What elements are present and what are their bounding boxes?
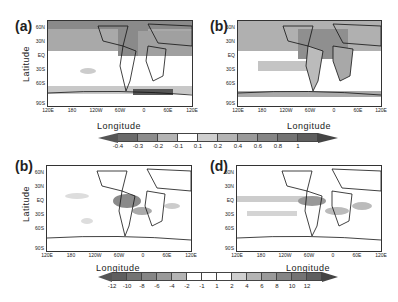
x-axis-label-a: Longitude (97, 121, 141, 131)
colorbar-bottom-max-arrow (322, 272, 338, 282)
x-tick-d: 120E (227, 252, 247, 258)
colorbar-tick-label: -0.2 (148, 143, 168, 149)
colorbar-segment (138, 133, 158, 142)
y-tick-a: 30N (31, 38, 45, 44)
x-tick-a: 60E (158, 107, 178, 113)
map-plot-a (48, 21, 192, 106)
map-plot-b (238, 21, 381, 106)
x-tick-d: 60W (299, 252, 319, 258)
y-tick-b2: 30S (30, 211, 44, 217)
x-tick-b2: 60W (109, 252, 129, 258)
colorbar-segment (187, 272, 202, 281)
y-tick-b: 60S (221, 80, 235, 86)
colorbar-tick-label: 0.6 (248, 143, 268, 149)
y-tick-d: EQ (220, 197, 234, 203)
y-tick-b2: EQ (30, 197, 44, 203)
y-tick-a: 60S (31, 80, 45, 86)
x-tick-d: 60E (347, 252, 367, 258)
colorbar-segment (202, 272, 217, 281)
colorbar-tick-label: 12 (297, 283, 317, 289)
colorbar-top-min-arrow (98, 133, 118, 143)
y-tick-d: 30N (220, 183, 234, 189)
map-plot-d (237, 166, 381, 251)
y-tick-a: 90S (31, 100, 45, 106)
x-tick-a: 120E (38, 107, 58, 113)
x-tick-a: 0 (134, 107, 154, 113)
x-tick-d: 0 (323, 252, 343, 258)
map-plot-b2 (47, 166, 191, 251)
colorbar-tick-label: 0.4 (228, 143, 248, 149)
colorbar-bottom-min-arrow (98, 272, 112, 282)
y-tick-b: 30N (221, 38, 235, 44)
colorbar-top (118, 133, 318, 142)
y-tick-a: 30S (31, 66, 45, 72)
colorbar-segment (238, 133, 258, 142)
y-tick-b: 90S (221, 100, 235, 106)
colorbar-tick-label: 0.8 (268, 143, 288, 149)
y-tick-d: 90S (220, 245, 234, 251)
colorbar-segment (198, 133, 218, 142)
x-tick-b: 120E (371, 107, 391, 113)
x-axis-label-b: Longitude (287, 121, 331, 131)
y-tick-b: 60N (221, 24, 235, 30)
x-tick-b: 60W (300, 107, 320, 113)
colorbar-segment (292, 272, 307, 281)
x-tick-a: 180 (62, 107, 82, 113)
map-panel-a (47, 20, 193, 107)
colorbar-segment (157, 272, 172, 281)
y-tick-b2: 60S (30, 225, 44, 231)
colorbar-segment (158, 133, 178, 142)
x-tick-a: 120W (86, 107, 106, 113)
y-tick-a: 60N (31, 24, 45, 30)
colorbar-tick-label: 1 (288, 143, 308, 149)
x-tick-b2: 180 (61, 252, 81, 258)
x-tick-d: 180 (251, 252, 271, 258)
x-tick-a: 60W (110, 107, 130, 113)
x-tick-b2: 120E (37, 252, 57, 258)
colorbar-segment (247, 272, 262, 281)
colorbar-tick-label: 0.1 (188, 143, 208, 149)
x-tick-b: 120W (276, 107, 296, 113)
colorbar-tick-label: 0.2 (208, 143, 228, 149)
y-tick-b: 30S (221, 66, 235, 72)
map-panel-b (237, 20, 382, 107)
y-tick-a: EQ (31, 52, 45, 58)
colorbar-segment (127, 272, 142, 281)
x-tick-a: 120E (182, 107, 202, 113)
colorbar-segment (232, 272, 247, 281)
y-axis-label-a: Latitude (21, 46, 31, 82)
colorbar-segment (258, 133, 278, 142)
map-panel-b2 (46, 165, 192, 252)
colorbar-segment (277, 272, 292, 281)
colorbar-segment (142, 272, 157, 281)
colorbar-segment (262, 272, 277, 281)
y-tick-d: 60S (220, 225, 234, 231)
colorbar-segment (307, 272, 322, 281)
colorbar-segment (178, 133, 198, 142)
x-tick-b: 0 (324, 107, 344, 113)
colorbar-tick-label: -0.4 (108, 143, 128, 149)
x-tick-d: 120W (275, 252, 295, 258)
x-tick-b2: 0 (133, 252, 153, 258)
colorbar-tick-label: -0.3 (128, 143, 148, 149)
colorbar-segment (118, 133, 138, 142)
y-tick-d: 30S (220, 211, 234, 217)
y-tick-d: 60N (220, 169, 234, 175)
y-tick-b2: 60N (30, 169, 44, 175)
colorbar-bottom (112, 272, 322, 281)
colorbar-segment (218, 133, 238, 142)
y-tick-b: EQ (221, 52, 235, 58)
y-tick-b2: 30N (30, 183, 44, 189)
x-tick-b: 60E (348, 107, 368, 113)
x-tick-b: 120E (228, 107, 248, 113)
y-tick-b2: 90S (30, 245, 44, 251)
x-tick-b2: 60E (157, 252, 177, 258)
panel-label-a: (a) (15, 18, 32, 34)
x-tick-b: 180 (252, 107, 272, 113)
colorbar-segment (278, 133, 298, 142)
colorbar-segment (172, 272, 187, 281)
x-tick-b2: 120W (85, 252, 105, 258)
x-tick-d: 120E (371, 252, 391, 258)
x-tick-b2: 120E (181, 252, 201, 258)
colorbar-top-max-arrow (318, 133, 338, 143)
